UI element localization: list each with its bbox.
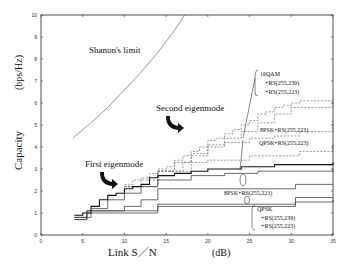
y-tick-label: 7 [34, 78, 37, 84]
y-tick-label: 1 [34, 210, 37, 216]
y-tick-label: 3 [34, 166, 37, 172]
y-tick-label: 9 [34, 34, 37, 40]
annotation-16qam-rs223: +RS(255,223) [265, 89, 299, 96]
annotation-qpsk-rs239: +RS(255,239) [261, 215, 295, 222]
y-tick-label: 0 [34, 232, 37, 238]
y-tick-label: 4 [34, 144, 37, 150]
y-tick-label: 2 [34, 188, 37, 194]
arrow-first-eigenmode-icon [100, 172, 118, 189]
x-axis-label: Link S／N [108, 246, 157, 258]
y-tick-label: 5 [34, 122, 37, 128]
y-tick-label: 10 [31, 12, 37, 18]
annotation-16qam-rs239: +RS(255,239) [265, 80, 299, 87]
y-axis-unit: (bps/Hz) [13, 55, 25, 90]
x-tick-label: 20 [205, 238, 211, 244]
annotation-8psk-dashed: 8PSK+RS(255,223) [260, 127, 308, 134]
annotation-16qam: 16QAM [260, 71, 281, 77]
annotation-qpsk-dashed: QPSK+RS(255,223) [259, 140, 309, 147]
annotation-qpsk-rs223: +RS(255,223) [261, 223, 295, 230]
x-tick-label: 35 [330, 238, 336, 244]
y-tick-label: 6 [34, 100, 37, 106]
annotation-second-eigenmode: Second eigenmode [156, 103, 224, 113]
x-tick-label: 30 [289, 238, 295, 244]
x-tick-label: 10 [122, 238, 128, 244]
capacity-chart: 05101520253035012345678910 Capacity (bps… [0, 0, 343, 272]
x-tick-label: 15 [163, 238, 169, 244]
x-tick-label: 25 [247, 238, 253, 244]
x-axis-unit: (dB) [212, 247, 230, 259]
annotation-qpsk: QPSK [257, 206, 273, 212]
annotation-shannon: Shanon's limit [89, 45, 141, 55]
series-line [74, 184, 333, 217]
annotation-first-eigenmode: First eigenmode [85, 159, 143, 169]
y-axis-label: Capacity [12, 130, 24, 170]
x-tick-label: 0 [40, 238, 43, 244]
y-tick-label: 8 [34, 56, 37, 62]
arrow-second-eigenmode-icon [166, 116, 184, 133]
x-tick-label: 5 [81, 238, 84, 244]
series-line [74, 169, 333, 217]
plot-frame [41, 15, 333, 235]
